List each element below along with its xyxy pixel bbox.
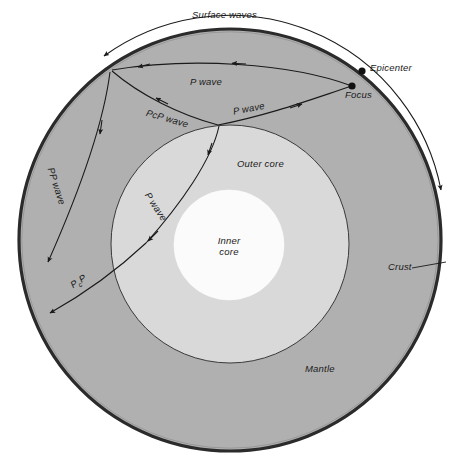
earth-cross-section-svg	[0, 0, 458, 467]
seismic-wave-diagram: Surface waves Epicenter Focus P wave P w…	[0, 0, 458, 467]
inner-core-region	[174, 190, 284, 300]
epicenter-dot	[358, 67, 365, 74]
focus-dot	[348, 82, 355, 89]
